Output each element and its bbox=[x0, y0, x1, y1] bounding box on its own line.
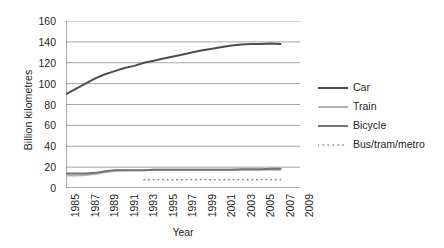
solid-line-icon bbox=[318, 120, 348, 132]
legend-item[interactable]: Car bbox=[318, 78, 444, 97]
legend-item-label: Car bbox=[353, 82, 370, 93]
x-tick-label: 1997 bbox=[187, 194, 198, 217]
x-tick-label: 1987 bbox=[90, 194, 101, 217]
dotted-line-icon bbox=[318, 139, 348, 151]
chart-legend: CarTrainBicycleBus/tram/metro bbox=[318, 78, 444, 154]
x-tick-label: 2003 bbox=[246, 194, 257, 217]
solid-line-icon bbox=[318, 101, 348, 113]
x-tick-label: 2001 bbox=[226, 194, 237, 217]
y-tick-label: 160 bbox=[22, 16, 56, 27]
x-tick-label: 1999 bbox=[207, 194, 218, 217]
series-line-bicycle bbox=[66, 169, 281, 174]
x-tick-label: 1989 bbox=[109, 194, 120, 217]
x-tick-label: 1991 bbox=[129, 194, 140, 217]
legend-item-label: Train bbox=[353, 101, 377, 112]
y-tick-label: 80 bbox=[22, 100, 56, 111]
y-axis-tick-labels: 020406080100120140160 bbox=[22, 0, 56, 248]
solid-line-icon bbox=[318, 82, 348, 94]
line-chart: Billion kilometres 020406080100120140160… bbox=[0, 0, 444, 248]
legend-item[interactable]: Train bbox=[318, 97, 444, 116]
legend-item-label: Bicycle bbox=[353, 120, 386, 131]
legend-item[interactable]: Bicycle bbox=[318, 116, 444, 135]
legend-item[interactable]: Bus/tram/metro bbox=[318, 135, 444, 154]
plot-area bbox=[66, 21, 300, 188]
x-tick-label: 2005 bbox=[265, 194, 276, 217]
x-tick-label: 1985 bbox=[70, 194, 81, 217]
y-tick-label: 140 bbox=[22, 37, 56, 48]
series-line-car bbox=[66, 43, 281, 94]
x-tick-label: 1995 bbox=[168, 194, 179, 217]
legend-item-label: Bus/tram/metro bbox=[353, 139, 425, 150]
x-tick-label: 2007 bbox=[285, 194, 296, 217]
y-tick-label: 0 bbox=[22, 183, 56, 194]
y-tick-label: 100 bbox=[22, 79, 56, 90]
x-tick-label: 2009 bbox=[304, 194, 315, 217]
y-tick-label: 60 bbox=[22, 120, 56, 131]
x-tick-label: 1993 bbox=[148, 194, 159, 217]
x-axis-title: Year bbox=[66, 226, 300, 238]
y-tick-label: 20 bbox=[22, 162, 56, 173]
y-tick-label: 120 bbox=[22, 58, 56, 69]
data-series-layer bbox=[66, 43, 281, 179]
y-tick-label: 40 bbox=[22, 141, 56, 152]
plot-svg bbox=[66, 21, 300, 188]
